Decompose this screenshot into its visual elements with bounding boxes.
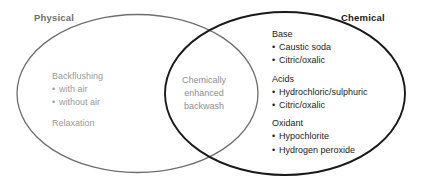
list-item: •with air (52, 83, 103, 96)
physical-set-label: Physical (34, 12, 74, 23)
bullet-icon: • (272, 99, 279, 112)
bullet-icon: • (272, 144, 279, 157)
intersection-line: backwash (160, 100, 248, 113)
chemical-only-content: Base •Caustic soda •Citric/oxalic Acids … (272, 28, 368, 157)
list-item-label: Caustic soda (279, 42, 331, 52)
list-item: •Citric/oxalic (272, 99, 368, 112)
bullet-icon: • (272, 86, 279, 99)
group-heading: Oxidant (272, 117, 368, 130)
list-item-label: Hypochlorite (279, 131, 329, 141)
intersection-line: enhanced (160, 87, 248, 100)
list-item-label: Hydrochloric/sulphuric (279, 87, 368, 97)
list-item: •Citric/oxalic (272, 54, 368, 67)
list-item-label: Citric/oxalic (279, 55, 325, 65)
list-item: •Hydrochloric/sulphuric (272, 86, 368, 99)
chemical-group-oxidant: Oxidant •Hypochlorite •Hydrogen peroxide (272, 117, 368, 157)
list-item-label: with air (59, 84, 88, 94)
list-item-label: Citric/oxalic (279, 100, 325, 110)
chemical-group-base: Base •Caustic soda •Citric/oxalic (272, 28, 368, 68)
group-heading: Relaxation (52, 117, 103, 130)
venn-diagram: Physical Chemical Backflushing •with air… (0, 0, 422, 180)
bullet-icon: • (52, 83, 59, 96)
group-heading: Acids (272, 73, 368, 86)
group-heading: Base (272, 28, 368, 41)
chemical-set-label: Chemical (341, 12, 385, 23)
list-item: •without air (52, 96, 103, 109)
list-item: •Hydrogen peroxide (272, 144, 368, 157)
chemical-group-acids: Acids •Hydrochloric/sulphuric •Citric/ox… (272, 73, 368, 113)
group-spacer (52, 110, 103, 117)
bullet-icon: • (52, 96, 59, 109)
intersection-content: Chemically enhanced backwash (160, 74, 248, 114)
physical-only-content: Backflushing •with air •without air Rela… (52, 70, 103, 130)
list-item-label: Hydrogen peroxide (279, 145, 355, 155)
list-item: •Caustic soda (272, 41, 368, 54)
bullet-icon: • (272, 54, 279, 67)
bullet-icon: • (272, 41, 279, 54)
intersection-line: Chemically (160, 74, 248, 87)
group-heading: Backflushing (52, 70, 103, 83)
bullet-icon: • (272, 130, 279, 143)
list-item-label: without air (59, 97, 100, 107)
list-item: •Hypochlorite (272, 130, 368, 143)
